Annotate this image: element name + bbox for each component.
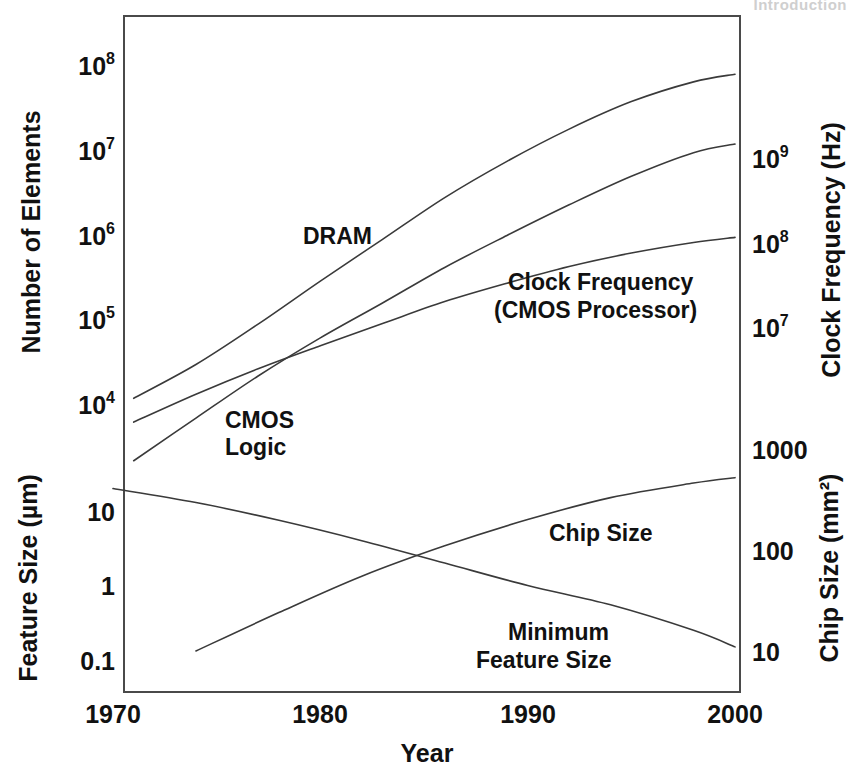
xtick-1980: 1980 xyxy=(292,700,348,728)
axis-title-number-of-elements: Number of Elements xyxy=(17,110,45,353)
series-label-clock-frequency-line2: (CMOS Processor) xyxy=(494,297,697,323)
series-layer xyxy=(113,74,735,651)
axis-right-bottom: 1000 100 10 Chip Size (mm²) xyxy=(752,436,843,666)
ytick-1e7: 107 xyxy=(78,135,115,165)
chart-svg: 108 107 106 105 104 Number of Elements 1… xyxy=(0,0,865,777)
axis-title-feature-size: Feature Size (µm) xyxy=(14,474,42,682)
ytick-clock-1e8: 108 xyxy=(752,228,789,258)
series-label-cmos-logic-line2: Logic xyxy=(225,434,287,460)
axis-x: 1970 1980 1990 2000 Year xyxy=(85,700,763,767)
series-label-dram: DRAM xyxy=(303,223,372,249)
series-label-cmos-logic-line1: CMOS xyxy=(225,407,294,433)
series-line-chip-size xyxy=(196,478,735,651)
series-label-chip-size: Chip Size xyxy=(549,520,653,546)
xtick-1970: 1970 xyxy=(85,700,141,728)
axis-left-top: 108 107 106 105 104 Number of Elements xyxy=(17,50,115,419)
series-label-clock-frequency-line1: Clock Frequency xyxy=(508,269,694,295)
ytick-feature-10: 10 xyxy=(87,498,115,526)
series-line-dram xyxy=(134,74,735,398)
running-header: Introduction xyxy=(754,0,847,13)
ytick-clock-1e7: 107 xyxy=(752,312,789,342)
series-label-minimum-feature-size-line1: Minimum xyxy=(508,619,609,645)
series-line-minimum-feature-size xyxy=(113,489,735,647)
axis-left-bottom: 10 1 0.1 Feature Size (µm) xyxy=(14,474,115,682)
ytick-feature-0-1: 0.1 xyxy=(80,647,115,675)
axis-right-top: 109 108 107 Clock Frequency (Hz) xyxy=(752,122,845,378)
figure-canvas: Introduction 108 107 106 105 104 Number … xyxy=(0,0,865,777)
series-line-clock-frequency xyxy=(134,237,735,422)
ytick-1e8: 108 xyxy=(78,50,115,80)
ytick-1e4: 104 xyxy=(78,389,115,419)
axis-title-clock-frequency: Clock Frequency (Hz) xyxy=(817,122,845,378)
ytick-chip-10: 10 xyxy=(752,638,780,666)
xtick-1990: 1990 xyxy=(500,700,556,728)
ytick-chip-100: 100 xyxy=(752,537,794,565)
series-label-minimum-feature-size-line2: Feature Size xyxy=(476,647,612,673)
ytick-1e5: 105 xyxy=(78,304,115,334)
axis-title-year: Year xyxy=(401,739,454,767)
ytick-clock-1e9: 109 xyxy=(752,143,789,173)
axis-title-chip-size: Chip Size (mm²) xyxy=(815,474,843,663)
plot-frame xyxy=(124,16,740,692)
ytick-feature-1: 1 xyxy=(101,572,115,600)
ytick-1e6: 106 xyxy=(78,220,115,250)
xtick-2000: 2000 xyxy=(707,700,763,728)
ytick-chip-1000: 1000 xyxy=(752,436,808,464)
